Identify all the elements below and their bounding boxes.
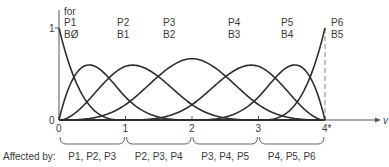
brace-0: [60, 137, 125, 144]
brace-2: [193, 137, 258, 144]
brace-3: [260, 137, 325, 144]
x-axis-label: v: [383, 115, 389, 126]
affected-by-segment-2: P3, P4, P5: [201, 151, 249, 162]
basis-curves: [59, 28, 325, 120]
affected-by-braces: [60, 137, 324, 144]
curve-label-basis-4: B4: [281, 29, 294, 40]
curve-label-point-2: P3: [163, 17, 176, 28]
affected-by-segment-3: P4, P5, P6: [268, 151, 316, 162]
basis-curve-0: [59, 28, 325, 120]
x-tick-label-1: 1: [123, 123, 129, 134]
x-tick-label-3: 3: [256, 123, 262, 134]
basis-curve-1: [59, 65, 325, 120]
x-tick-label-0: 0: [56, 123, 62, 134]
curve-label-basis-2: B2: [163, 29, 176, 40]
y-tick-label-1: 1: [49, 23, 55, 34]
curve-label-point-1: P2: [117, 17, 130, 28]
curve-label-basis-3: B3: [228, 29, 241, 40]
brace-1: [127, 137, 192, 144]
curve-label-point-0: P1: [64, 17, 77, 28]
x-tick-labels: 01234*: [56, 123, 332, 134]
curve-label-basis-0: BØ: [64, 29, 79, 40]
basis-curve-2: [59, 65, 325, 120]
curve-label-point-4: P5: [281, 17, 294, 28]
affected-by-segment-0: P1, P2, P3: [68, 151, 116, 162]
b-spline-basis-diagram: 1 0 for P1BØP2B1P3B2P4B3P5B4P6B5 01234* …: [0, 0, 389, 167]
curve-label-basis-5: B5: [331, 29, 344, 40]
x-tick-label-2: 2: [189, 123, 195, 134]
affected-by-segments: P1, P2, P3P2, P3, P4P3, P4, P5P4, P5, P6: [68, 151, 316, 162]
curve-label-point-3: P4: [228, 17, 241, 28]
y-tick-label-0: 0: [49, 115, 55, 126]
x-tick-label-4: 4*: [322, 123, 332, 134]
curve-label-point-5: P6: [331, 17, 344, 28]
x-axis-arrow-icon: [375, 118, 381, 123]
curve-label-basis-1: B1: [117, 29, 130, 40]
basis-curve-4: [59, 65, 325, 120]
basis-curve-6: [59, 28, 325, 120]
affected-by-segment-1: P2, P3, P4: [135, 151, 183, 162]
for-heading: for: [64, 6, 76, 17]
affected-by-label: Affected by:: [3, 151, 56, 162]
basis-curve-5: [59, 65, 325, 120]
curve-labels: P1BØP2B1P3B2P4B3P5B4P6B5: [64, 17, 344, 40]
